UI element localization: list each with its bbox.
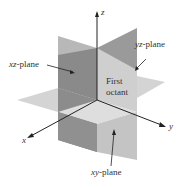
first-octant-line1: First: [106, 76, 128, 87]
yz-plane-var: yz: [135, 39, 143, 49]
xz-plane-label: xz-plane: [9, 60, 39, 69]
first-octant-line2: octant: [106, 87, 128, 98]
first-octant-label: First octant: [106, 76, 128, 98]
yz-plane-label: yz-plane: [135, 40, 165, 49]
y-axis-label: y: [169, 122, 173, 131]
xy-plane-label: xy-plane: [91, 168, 122, 177]
x-axis-arrowhead: [27, 133, 34, 138]
x-axis-label: x: [22, 136, 26, 145]
coordinate-planes-diagram: z x y xz-plane yz-plane xy-plane First o…: [0, 0, 187, 188]
xz-plane-var: xz: [9, 59, 17, 69]
y-axis-arrowhead: [159, 122, 166, 127]
z-axis-arrowhead: [95, 11, 99, 17]
yz-plane-suffix: -plane: [143, 39, 166, 49]
xy-plane-var: xy: [91, 167, 99, 177]
diagram-canvas: [0, 0, 187, 188]
z-axis-label: z: [101, 8, 105, 17]
xy-plane-suffix: -plane: [99, 167, 122, 177]
xz-plane-suffix: -plane: [17, 59, 40, 69]
